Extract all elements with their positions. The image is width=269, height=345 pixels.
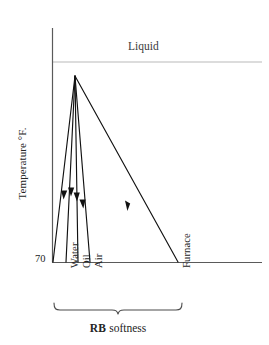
x-category-label-furnace: Furnace (182, 233, 193, 268)
x-axis-caption: RB softness (0, 323, 236, 335)
y-axis-title: Temperature °F. (17, 104, 28, 224)
x-category-label-oil: Oil (82, 254, 93, 268)
arrowhead-oil (74, 193, 80, 202)
softness-brace (54, 303, 182, 314)
cooling-curves (53, 76, 178, 262)
x-category-label-water: Water (70, 242, 81, 268)
x-axis-caption-abbrev: RB (90, 322, 107, 334)
cooling-direction-arrows (61, 188, 130, 212)
x-axis-caption-text: softness (106, 322, 146, 334)
arrowhead-air (79, 200, 85, 209)
arrowhead-fastest (61, 191, 67, 200)
arrowhead-furnace (125, 200, 130, 211)
y-axis-origin-tick-label: 70 (35, 254, 46, 265)
x-category-label-air: Air (94, 254, 105, 268)
cooling-curve-water (66, 76, 75, 262)
cooling-curve-fastest (53, 76, 75, 262)
region-label-liquid: Liquid (128, 41, 159, 53)
cooling-curve-figure: Liquid 70 Temperature °F. Water Oil Air … (0, 0, 269, 345)
cooling-curve-furnace (75, 76, 178, 262)
